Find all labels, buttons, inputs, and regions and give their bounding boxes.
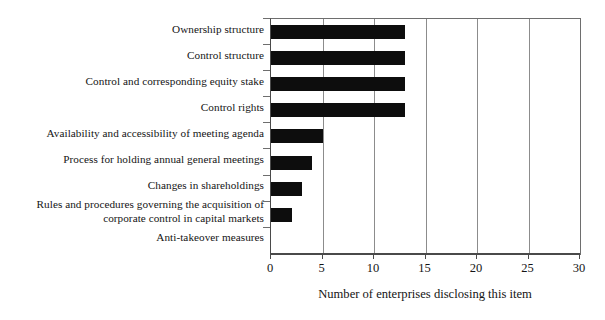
x-tick-20 xyxy=(476,253,477,259)
category-label-rules-and-procedures-governing-acquisition: Rules and procedures governing the acqui… xyxy=(0,198,264,225)
x-tick-label-15: 15 xyxy=(405,261,445,276)
category-tick-4 xyxy=(263,122,270,123)
x-tick-label-25: 25 xyxy=(508,261,548,276)
bar-changes-in-shareholdings xyxy=(271,182,302,196)
x-tick-label-0: 0 xyxy=(250,261,290,276)
x-tick-25 xyxy=(528,253,529,259)
bar-chart: Ownership structure Control structure Co… xyxy=(0,0,605,320)
category-tick-3 xyxy=(263,96,270,97)
category-tick-6 xyxy=(263,175,270,176)
category-tick-7 xyxy=(263,201,270,202)
category-label-ownership-structure: Ownership structure xyxy=(0,23,264,37)
category-tick-1 xyxy=(263,44,270,45)
category-label-control-and-corresponding-equity-stake: Control and corresponding equity stake xyxy=(0,75,264,89)
x-tick-label-30: 30 xyxy=(559,261,599,276)
gridline-25 xyxy=(529,19,530,254)
category-axis-labels: Ownership structure Control structure Co… xyxy=(0,18,264,253)
x-tick-15 xyxy=(425,253,426,259)
bar-control-and-corresponding-equity-stake xyxy=(271,77,405,91)
x-tick-30 xyxy=(579,253,580,259)
gridline-15 xyxy=(426,19,427,254)
x-tick-label-10: 10 xyxy=(353,261,393,276)
bar-process-for-holding-annual-general-meetings xyxy=(271,156,312,170)
x-tick-10 xyxy=(373,253,374,259)
bar-rules-and-procedures-governing-acquisition xyxy=(271,208,292,222)
category-label-anti-takeover-measures: Anti-takeover measures xyxy=(0,231,264,245)
bar-control-rights xyxy=(271,103,405,117)
category-tick-2 xyxy=(263,70,270,71)
category-tick-8 xyxy=(263,227,270,228)
plot-area xyxy=(270,18,581,255)
category-label-changes-in-shareholdings: Changes in shareholdings xyxy=(0,179,264,193)
category-label-availability-and-accessibility-of-meeting-agenda: Availability and accessibility of meetin… xyxy=(0,127,264,141)
bar-availability-and-accessibility-of-meeting-agenda xyxy=(271,129,323,143)
category-tick-5 xyxy=(263,148,270,149)
bar-ownership-structure xyxy=(271,25,405,39)
category-label-control-structure: Control structure xyxy=(0,49,264,63)
category-label-process-for-holding-annual-general-meetings: Process for holding annual general meeti… xyxy=(0,153,264,167)
x-axis-title: Number of enterprises disclosing this it… xyxy=(270,287,580,302)
bar-control-structure xyxy=(271,51,405,65)
x-tick-0 xyxy=(270,253,271,259)
x-tick-5 xyxy=(322,253,323,259)
x-tick-label-20: 20 xyxy=(456,261,496,276)
gridline-20 xyxy=(477,19,478,254)
category-tick-0 xyxy=(263,18,270,19)
category-label-control-rights: Control rights xyxy=(0,101,264,115)
x-tick-label-5: 5 xyxy=(302,261,342,276)
